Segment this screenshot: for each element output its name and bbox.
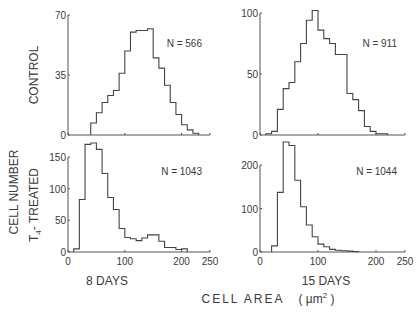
- axes: [260, 165, 405, 252]
- x-axis-label: CELL AREA( µm2 ): [202, 291, 335, 306]
- sample-size-annotation: N = 1043: [161, 166, 202, 177]
- x-tick-label: 250: [397, 256, 414, 267]
- y-tick-label: 150: [49, 152, 66, 163]
- sample-size-annotation: N = 566: [167, 38, 203, 49]
- histogram-bars: [272, 142, 359, 252]
- panel-control-8-days: 03570N = 566: [55, 10, 210, 141]
- panel-treated-8-days: 0501001500100200250N = 1043: [49, 143, 218, 267]
- y-tick-label: 100: [241, 204, 258, 215]
- x-tick-label: 200: [368, 256, 385, 267]
- axes: [68, 15, 210, 135]
- y-tick-label: 100: [241, 8, 258, 19]
- histogram-figure: CELL NUMBER CONTROL T4- TREATED 03570N =…: [0, 0, 418, 319]
- y-tick-label: 35: [55, 70, 67, 81]
- sample-size-annotation: N = 1044: [356, 166, 397, 177]
- panel-control-15-days: 050100N = 911: [241, 8, 405, 141]
- panel-treated-15-days: 01002000100200250N = 1044: [241, 142, 413, 267]
- x-tick-label: 100: [116, 256, 133, 267]
- row-label-control: CONTROL: [27, 45, 41, 104]
- y-tick-label: 200: [241, 160, 258, 171]
- histogram-bars: [74, 143, 188, 252]
- y-axis-label: CELL NUMBER: [7, 149, 21, 234]
- y-tick-label: 70: [55, 10, 67, 21]
- col-label-8-days: 8 DAYS: [86, 274, 128, 288]
- x-tick-label: 200: [173, 256, 190, 267]
- y-tick-label: 100: [49, 184, 66, 195]
- histogram-bars: [266, 11, 388, 135]
- x-tick-label: 250: [202, 256, 219, 267]
- x-tick-label: 100: [310, 256, 327, 267]
- y-tick-label: 50: [247, 69, 259, 80]
- y-tick-label: 50: [55, 215, 67, 226]
- sample-size-annotation: N = 911: [362, 38, 397, 49]
- axes: [260, 13, 405, 135]
- row-label-treated: T4- TREATED: [27, 168, 43, 242]
- y-tick-label: 0: [252, 130, 258, 141]
- y-tick-label: 0: [60, 130, 66, 141]
- x-tick-label: 0: [257, 256, 263, 267]
- col-label-15-days: 15 DAYS: [302, 274, 350, 288]
- x-tick-label: 0: [65, 256, 71, 267]
